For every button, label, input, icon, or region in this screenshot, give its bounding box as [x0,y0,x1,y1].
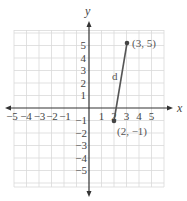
y-axis-label: y [84,4,91,18]
point-label-2-neg1: (2, −1) [117,125,147,138]
coordinate-plane: y x −5 −4 −3 −2 −1 1 2 3 4 5 5 4 3 2 1 −… [0,0,187,201]
svg-text:−1: −1 [75,114,87,126]
svg-text:1: 1 [81,89,87,101]
svg-text:−5: −5 [6,110,18,122]
point-3-5 [125,41,130,46]
svg-text:−3: −3 [75,139,87,151]
svg-text:−2: −2 [46,110,58,122]
y-axis-up-arrow-icon [87,21,92,27]
svg-text:2: 2 [81,77,87,89]
y-axis-down-arrow-icon [87,191,92,197]
svg-text:−4: −4 [20,110,32,122]
svg-text:3: 3 [124,110,130,122]
svg-text:−5: −5 [75,164,87,176]
svg-text:1: 1 [99,110,105,122]
svg-text:−2: −2 [75,127,87,139]
svg-text:4: 4 [136,110,142,122]
svg-text:−4: −4 [75,152,87,164]
svg-text:−1: −1 [59,110,71,122]
x-axis-right-arrow-icon [167,106,173,111]
svg-text:5: 5 [81,39,87,51]
point-label-3-5: (3, 5) [132,37,156,50]
x-axis-label: x [176,101,183,115]
svg-text:−3: −3 [34,110,46,122]
svg-text:5: 5 [149,110,155,122]
segment-label: d [112,70,118,82]
svg-text:4: 4 [81,52,87,64]
point-2-neg1 [112,119,117,124]
svg-text:3: 3 [81,64,87,76]
